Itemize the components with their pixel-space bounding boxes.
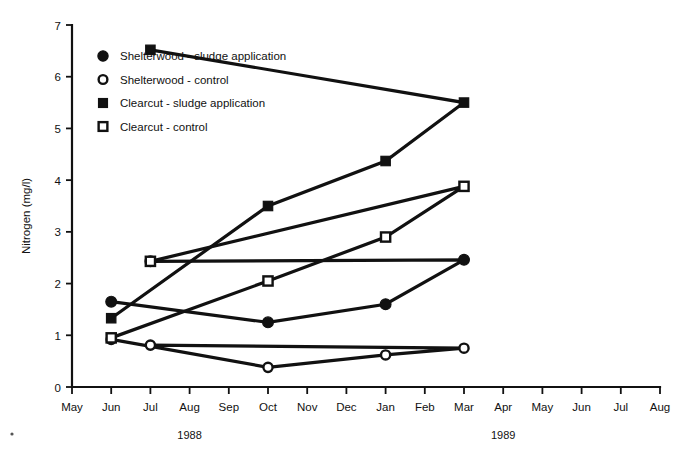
legend-marker-open-square [99, 122, 108, 131]
data-point-marker [459, 98, 468, 107]
legend-marker-filled-circle [98, 51, 108, 61]
data-point-marker [381, 350, 390, 359]
y-tick-labels: 01234567 [55, 20, 62, 394]
x-tick-label: Jul [613, 401, 628, 413]
x-tick-label: Mar [454, 401, 474, 413]
legend-label: Clearcut - control [120, 121, 208, 133]
data-point-marker [263, 201, 272, 210]
data-point-marker [107, 314, 116, 323]
x-year-labels: 19881989 [177, 429, 515, 441]
legend-entry: Shelterwood - control [99, 74, 229, 86]
series-polyline [111, 50, 464, 318]
y-tick-label: 6 [55, 71, 61, 83]
data-point-marker [263, 363, 272, 372]
series-polyline [111, 260, 464, 323]
data-point-marker [380, 299, 391, 310]
data-point-marker [459, 344, 468, 353]
x-tick-label: Jan [376, 401, 395, 413]
data-point-marker [381, 232, 390, 241]
legend-label: Shelterwood - sludge application [120, 50, 286, 62]
corner-speck [10, 432, 13, 435]
y-tick-label: 2 [55, 278, 61, 290]
x-tick-label: May [61, 401, 83, 413]
data-point-marker [381, 156, 390, 165]
data-point-marker [459, 254, 470, 265]
chart-canvas: 01234567 MayJunJulAugSepOctNovDecJanFebM… [0, 0, 687, 454]
y-tick-label: 1 [55, 330, 61, 342]
legend-entry: Shelterwood - sludge application [98, 50, 286, 62]
x-year-label: 1988 [177, 429, 201, 441]
legend-label: Clearcut - sludge application [120, 97, 265, 109]
chart-legend: Shelterwood - sludge applicationShelterw… [98, 50, 286, 133]
y-tick-label: 4 [55, 175, 62, 187]
series-polyline [111, 339, 464, 367]
data-point-marker [146, 341, 155, 350]
y-tick-label: 7 [55, 20, 61, 32]
data-point-marker [146, 257, 155, 266]
x-tick-label: Jun [572, 401, 591, 413]
y-tick-label: 3 [55, 226, 61, 238]
y-tick-label: 5 [55, 123, 61, 135]
data-point-marker [106, 296, 117, 307]
y-tick-label: 0 [55, 382, 61, 394]
x-year-label: 1989 [491, 429, 515, 441]
y-axis-title: Nitrogen (mg/l) [20, 178, 32, 254]
data-point-marker [263, 317, 274, 328]
legend-marker-open-circle [99, 75, 108, 84]
nitrogen-time-series-figure: 01234567 MayJunJulAugSepOctNovDecJanFebM… [0, 0, 687, 454]
x-tick-label: Dec [336, 401, 357, 413]
x-tick-label: Nov [297, 401, 318, 413]
x-tick-label: Feb [415, 401, 435, 413]
x-tick-label: Aug [650, 401, 670, 413]
x-tick-label: May [532, 401, 554, 413]
x-tick-label: Sep [219, 401, 239, 413]
legend-entry: Clearcut - control [99, 121, 208, 133]
x-tick-label: Apr [494, 401, 512, 413]
x-tick-label: Jul [143, 401, 158, 413]
series-open-circle [107, 335, 469, 372]
series-filled-square [107, 45, 469, 323]
x-tick-labels: MayJunJulAugSepOctNovDecJanFebMarAprMayJ… [61, 401, 670, 413]
y-axis-title-text: Nitrogen (mg/l) [20, 178, 32, 254]
data-series [106, 45, 470, 372]
x-tick-label: Aug [179, 401, 199, 413]
legend-label: Shelterwood - control [120, 74, 229, 86]
data-point-marker [459, 182, 468, 191]
series-filled-circle [106, 254, 470, 327]
data-point-marker [263, 276, 272, 285]
x-tick-label: Jun [102, 401, 121, 413]
legend-entry: Clearcut - sludge application [99, 97, 266, 109]
legend-marker-filled-square [99, 99, 108, 108]
x-tick-label: Oct [259, 401, 278, 413]
data-point-marker [107, 333, 116, 342]
